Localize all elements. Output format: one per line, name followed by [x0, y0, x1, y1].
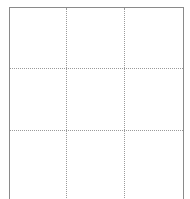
table-cell-r3c2[interactable] [66, 130, 124, 199]
table-cell-r2c1[interactable] [10, 68, 66, 130]
table-cell-r3c1-text [10, 130, 66, 134]
table-cell-r1c3-text [124, 8, 183, 12]
table-cell-r1c2-text [66, 8, 124, 12]
table-cell-r2c2-text [66, 68, 124, 72]
table-cell-r1c2[interactable] [66, 8, 124, 68]
table-cell-r1c3[interactable] [124, 8, 183, 68]
table-cell-r3c3-text [124, 130, 183, 134]
table-cell-r1c1-text [10, 8, 66, 12]
table-cell-r1c1[interactable] [10, 8, 66, 68]
table-cell-r3c2-text [66, 130, 124, 134]
table-cell-r3c1[interactable] [10, 130, 66, 199]
empty-3x3-table[interactable] [9, 7, 184, 199]
table-cell-r2c3[interactable] [124, 68, 183, 130]
page-root [0, 0, 190, 199]
table-cell-r2c1-text [10, 68, 66, 72]
table-cell-r3c3[interactable] [124, 130, 183, 199]
table-cell-r2c3-text [124, 68, 183, 72]
table-cell-r2c2[interactable] [66, 68, 124, 130]
